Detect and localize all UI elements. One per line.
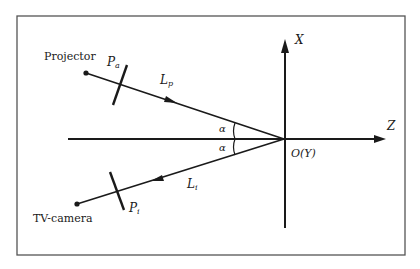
- alpha-lower-label: α: [219, 142, 226, 153]
- x-axis-arrow-icon: [281, 39, 289, 53]
- angle-arc-upper: [234, 123, 236, 139]
- x-axis-label: X: [294, 33, 304, 47]
- z-axis-arrow-icon: [374, 135, 386, 143]
- projector-label: Projector: [44, 50, 96, 63]
- optical-geometry-diagram: Projector TV-camera Pa Pi Lp Li X Z O(Y)…: [0, 0, 420, 269]
- projector-lens-pa: [113, 65, 127, 105]
- camera-lens-pi: [110, 172, 124, 210]
- origin-label: O(Y): [291, 147, 316, 160]
- alpha-upper-label: α: [219, 123, 226, 134]
- li-arrow-icon: [151, 175, 164, 181]
- z-axis-label: Z: [386, 119, 396, 133]
- angle-arc-lower: [234, 139, 236, 155]
- lp-arrow-icon: [164, 96, 177, 103]
- pa-label: Pa: [106, 55, 120, 70]
- pi-label: Pi: [128, 201, 140, 216]
- tv-camera-label: TV-camera: [33, 212, 93, 225]
- projector-point: [83, 70, 88, 75]
- camera-ray-li: [77, 139, 284, 204]
- projector-ray-lp: [86, 73, 284, 139]
- li-label: Li: [186, 177, 198, 192]
- camera-point: [74, 201, 79, 206]
- lp-label: Lp: [159, 73, 173, 88]
